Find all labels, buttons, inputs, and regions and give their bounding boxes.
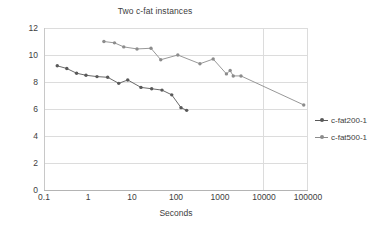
data-point bbox=[126, 78, 129, 81]
data-point bbox=[102, 40, 105, 43]
data-point bbox=[176, 53, 179, 56]
data-point bbox=[150, 87, 153, 90]
legend-marker-icon bbox=[315, 134, 328, 142]
data-point bbox=[122, 45, 125, 48]
data-point bbox=[149, 47, 152, 50]
data-point bbox=[84, 74, 87, 77]
data-point bbox=[135, 47, 138, 50]
data-point bbox=[160, 88, 163, 91]
data-point bbox=[225, 72, 228, 75]
legend-item-c-fat200-1[interactable]: c-fat200-1 bbox=[315, 114, 367, 127]
chart-container: Two c-fat instances 12 10 8 6 4 2 0 0.1 … bbox=[0, 0, 388, 232]
series-line bbox=[104, 42, 304, 105]
data-point bbox=[170, 93, 173, 96]
data-point bbox=[95, 75, 98, 78]
data-point bbox=[113, 41, 116, 44]
legend-item-c-fat500-1[interactable]: c-fat500-1 bbox=[315, 131, 367, 144]
data-point bbox=[239, 74, 242, 77]
data-point bbox=[198, 62, 201, 65]
data-point bbox=[211, 57, 214, 60]
data-point bbox=[179, 106, 182, 109]
data-point bbox=[117, 82, 120, 85]
data-point bbox=[56, 64, 59, 67]
series-c-fat200-1 bbox=[56, 64, 189, 112]
data-point bbox=[139, 86, 142, 89]
data-point bbox=[232, 74, 235, 77]
data-point bbox=[75, 72, 78, 75]
data-point bbox=[185, 109, 188, 112]
legend-marker-icon bbox=[315, 117, 328, 125]
data-point bbox=[106, 76, 109, 79]
data-point bbox=[159, 58, 162, 61]
chart-legend: c-fat200-1 c-fat500-1 bbox=[315, 114, 367, 148]
data-point bbox=[65, 67, 68, 70]
legend-label: c-fat200-1 bbox=[331, 116, 367, 125]
series-c-fat500-1 bbox=[102, 40, 305, 107]
legend-label: c-fat500-1 bbox=[331, 133, 367, 142]
data-point bbox=[228, 69, 231, 72]
data-point bbox=[302, 103, 305, 106]
